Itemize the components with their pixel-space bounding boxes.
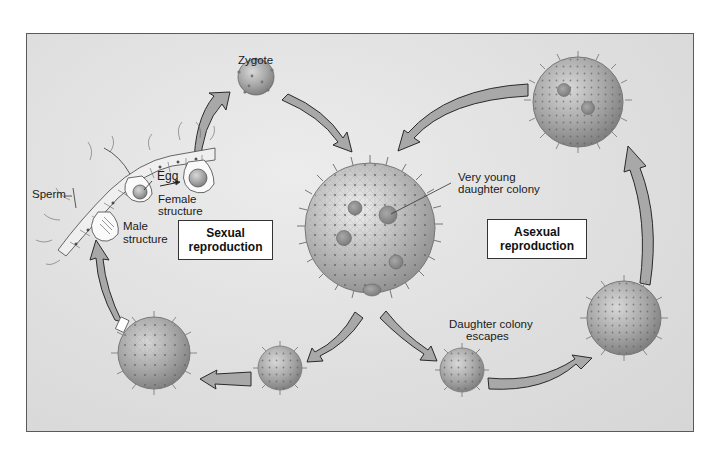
- arrow-escaped-to-growing: [488, 355, 592, 389]
- label-egg: Egg: [157, 170, 178, 183]
- diagram-graphics: [0, 0, 716, 451]
- asexual-box-line1: Asexual: [514, 225, 560, 239]
- sexual-box-line1: Sexual: [206, 226, 245, 240]
- label-very-young-line2: daughter colony: [458, 183, 540, 196]
- sexual-box-line2: reproduction: [189, 240, 263, 254]
- asexual-box-line2: reproduction: [500, 239, 574, 253]
- asexual-growing-colony: [580, 275, 668, 361]
- label-daughter-escapes-line2: escapes: [466, 330, 509, 343]
- sexual-reproduction-box: Sexual reproduction: [178, 220, 273, 260]
- label-female-structure-line2: structure: [158, 205, 203, 218]
- escaped-daughter-colony: [435, 343, 489, 397]
- arrow-parent-to-escaped: [380, 311, 437, 361]
- label-zygote: Zygote: [238, 54, 273, 67]
- arrow-mature-to-gametes: [90, 240, 122, 322]
- label-male-structure-line2: structure: [123, 233, 168, 246]
- parent-colony: [297, 155, 451, 298]
- volvox-life-cycle-diagram: Zygote Egg Sperm Female structure Male s…: [0, 0, 716, 451]
- arrow-zygote-to-parent: [282, 94, 352, 152]
- arrow-growing-to-mature: [624, 146, 653, 285]
- label-male-structure-line1: Male: [123, 220, 148, 233]
- arrow-parent-to-sexual-young: [307, 312, 363, 362]
- label-sperm: Sperm: [32, 188, 66, 201]
- sexual-young-colony: [253, 341, 307, 395]
- sexual-mature-colony: [111, 311, 197, 395]
- asexual-reproduction-box: Asexual reproduction: [487, 219, 587, 259]
- asexual-mature-colony: [524, 51, 632, 153]
- arrow-mature-to-parent: [398, 84, 528, 151]
- arrow-young-to-mature: [200, 370, 251, 389]
